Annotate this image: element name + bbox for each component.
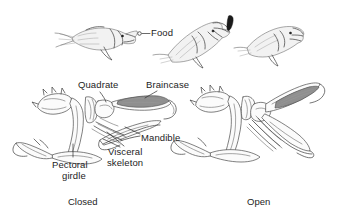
caption-open: Open bbox=[247, 196, 270, 207]
label-pectoral-girdle-line2: girdle bbox=[62, 171, 86, 182]
skull-open-diagram bbox=[171, 83, 325, 162]
label-visceral-skeleton-line2: skeleton bbox=[107, 158, 143, 169]
fish-feeding-figure: Food bbox=[0, 0, 340, 222]
label-pectoral-girdle-line1: Pectoral bbox=[52, 160, 88, 171]
caption-closed: Closed bbox=[68, 196, 98, 207]
skull-closed-diagram bbox=[13, 87, 176, 164]
label-mandible: Mandible bbox=[141, 133, 180, 144]
label-quadrate: Quadrate bbox=[78, 80, 118, 91]
label-braincase: Braincase bbox=[146, 80, 189, 91]
label-visceral-skeleton-line1: Visceral bbox=[108, 147, 142, 158]
skull-diagrams bbox=[0, 0, 340, 222]
